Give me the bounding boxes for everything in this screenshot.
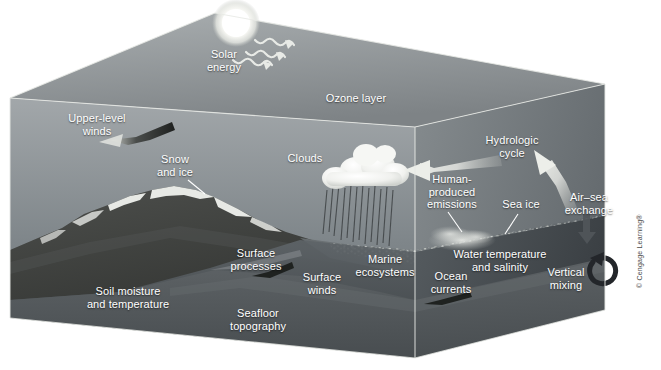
label-surface-winds: Surface winds <box>303 271 342 296</box>
label-snow-and-ice: Snow and ice <box>157 153 193 178</box>
label-clouds: Clouds <box>288 152 323 165</box>
diagram-canvas <box>0 0 661 370</box>
label-ozone-layer: Ozone layer <box>326 92 386 105</box>
label-upper-level-winds: Upper-level winds <box>68 112 125 137</box>
sun-icon <box>212 0 260 47</box>
copyright-credit: © Cengage Learning® <box>636 214 643 288</box>
label-human-produced-emissions: Human- produced emissions <box>427 173 477 211</box>
label-surface-processes: Surface processes <box>230 247 281 272</box>
label-seafloor-topography: Seafloor topography <box>230 307 286 332</box>
label-marine-ecosystems: Marine ecosystems <box>355 253 414 278</box>
climate-system-diagram: Solar energy Ozone layer Upper-level win… <box>0 0 661 370</box>
label-soil-moisture-and-temperature: Soil moisture and temperature <box>87 285 169 310</box>
label-hydrologic-cycle: Hydrologic cycle <box>486 134 539 159</box>
label-air-sea-exchange: Air–sea exchange <box>565 191 614 216</box>
label-sea-ice: Sea ice <box>502 198 539 211</box>
label-ocean-currents: Ocean currents <box>431 270 472 295</box>
label-solar-energy: Solar energy <box>207 48 241 73</box>
label-vertical-mixing: Vertical mixing <box>548 266 585 291</box>
